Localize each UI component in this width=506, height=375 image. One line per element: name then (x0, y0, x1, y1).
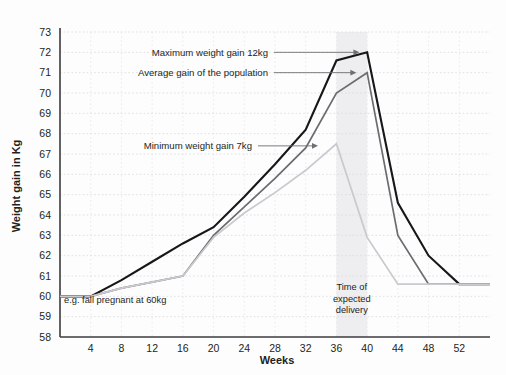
expected-delivery-label: Time ofexpecteddelivery (333, 282, 371, 315)
x-tick-label: 40 (361, 342, 373, 354)
y-tick-label: 63 (39, 229, 51, 241)
y-tick-label: 70 (39, 87, 51, 99)
x-tick-label: 44 (392, 342, 404, 354)
y-tick-label: 59 (39, 310, 51, 322)
y-tick-label: 67 (39, 148, 51, 160)
y-tick-label: 68 (39, 127, 51, 139)
y-tick-label: 72 (39, 46, 51, 58)
y-tick-label: 65 (39, 188, 51, 200)
x-tick-label: 32 (300, 342, 312, 354)
x-tick-label: 36 (331, 342, 343, 354)
y-axis-title: Weight gain in Kg (10, 140, 22, 233)
x-tick-label: 48 (423, 342, 435, 354)
y-tick-label: 64 (39, 209, 51, 221)
x-tick-label: 28 (269, 342, 281, 354)
band-label-line: delivery (336, 305, 368, 315)
y-tick-label: 60 (39, 290, 51, 302)
y-axis-tick-labels: 58596061626364656667686970717273 (39, 26, 51, 343)
x-tick-label: 20 (208, 342, 220, 354)
weight-gain-chart: 58596061626364656667686970717273 4812162… (0, 0, 506, 375)
annotation-label-avg: Average gain of the population (138, 67, 268, 78)
annotation-label-max: Maximum weight gain 12kg (152, 47, 268, 58)
x-tick-label: 52 (453, 342, 465, 354)
y-tick-label: 61 (39, 270, 51, 282)
y-tick-label: 66 (39, 168, 51, 180)
x-tick-label: 4 (88, 342, 94, 354)
annotation-label-min: Minimum weight gain 7kg (144, 140, 252, 151)
band-label-line: expected (333, 294, 371, 304)
baseline-note: e.g. fall pregnant at 60kg (64, 295, 166, 305)
x-tick-label: 12 (146, 342, 158, 354)
x-tick-label: 24 (238, 342, 250, 354)
band-label-line: Time of (336, 282, 367, 292)
y-tick-label: 71 (39, 66, 51, 78)
series-annotations: Maximum weight gain 12kgAverage gain of … (138, 47, 359, 152)
x-tick-label: 8 (119, 342, 125, 354)
y-tick-label: 69 (39, 107, 51, 119)
y-tick-label: 58 (39, 331, 51, 343)
y-tick-label: 62 (39, 249, 51, 261)
y-tick-label: 73 (39, 26, 51, 38)
x-tick-label: 16 (177, 342, 189, 354)
x-axis-title: Weeks (260, 354, 295, 366)
annotation-arrowhead-min (312, 143, 318, 149)
chart-canvas: 58596061626364656667686970717273 4812162… (0, 0, 506, 375)
x-axis-tick-labels: 481216202428323640444852 (88, 342, 465, 354)
